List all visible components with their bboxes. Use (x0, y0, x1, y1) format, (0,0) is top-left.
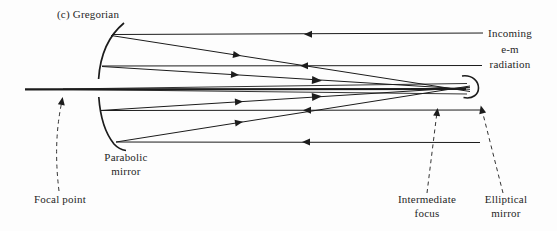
axis-beam-arrowhead-upper (312, 76, 322, 85)
parabolic-mirror-arc-upper (99, 23, 124, 79)
intermediate-focus-leader-line (427, 112, 437, 193)
intermediate-focus-label: Intermediate focus (382, 193, 472, 220)
figure-title: (c) Gregorian (57, 8, 119, 22)
incoming-ray-2-arrowhead (300, 62, 308, 69)
elliptical-mirror-leader-line (482, 110, 503, 193)
incoming-ray-3-arrowhead (303, 107, 311, 114)
incoming-radiation-label-line2: e-m (468, 42, 552, 58)
reflected-ray-1-arrowhead (233, 51, 242, 59)
incoming-ray-2 (102, 66, 482, 67)
intermediate-focus-label-line2: focus (382, 207, 472, 221)
incoming-ray-4 (116, 142, 480, 143)
intermediate-focus-label-line1: Intermediate (382, 193, 472, 207)
parabolic-mirror-label-line1: Parabolic (86, 151, 166, 165)
focal-point-leader-arrowhead (58, 96, 66, 105)
elliptical-mirror-label-line1: Elliptical (466, 193, 546, 207)
parabolic-mirror-label-line2: mirror (86, 165, 166, 179)
parabolic-mirror-label: Parabolic mirror (86, 151, 166, 178)
incoming-ray-1-arrowhead (304, 31, 312, 38)
reflected-ray-3-arrowhead (235, 98, 243, 105)
reflected-ray-4 (116, 86, 470, 142)
elliptical-mirror-label-line2: mirror (466, 207, 546, 221)
elliptical-mirror-label: Elliptical mirror (466, 193, 546, 220)
incoming-radiation-label-line3: radiation (468, 57, 552, 73)
focal-point-label: Focal point (15, 193, 105, 207)
focal-point-leader-line (57, 101, 62, 191)
intermediate-focus-leader-arrowhead (433, 108, 441, 117)
incoming-ray-4-arrowhead (302, 139, 310, 146)
gregorian-telescope-diagram: (c) Gregorian Incoming e-m radiation Par… (0, 0, 557, 231)
axis-beam-arrowhead-lower (312, 92, 322, 101)
elliptical-mirror-leader-arrowhead (477, 105, 486, 114)
incoming-ray-1 (112, 33, 483, 35)
reflected-ray-2-arrowhead (231, 71, 239, 78)
incoming-radiation-label: Incoming e-m radiation (468, 26, 552, 73)
incoming-ray-3 (100, 110, 480, 111)
reflected-ray-1 (111, 36, 470, 92)
incoming-radiation-label-line1: Incoming (468, 26, 552, 42)
